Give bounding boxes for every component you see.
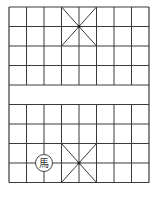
top-palace-center-dot bbox=[77, 25, 80, 28]
piece-label: 馬 bbox=[39, 158, 49, 169]
board-grid bbox=[9, 7, 149, 183]
piece-horse[interactable]: 馬 bbox=[36, 155, 53, 172]
bottom-palace-center-dot bbox=[77, 161, 80, 164]
xiangqi-board[interactable]: 馬 bbox=[0, 0, 157, 201]
pieces-layer: 馬 bbox=[36, 155, 53, 172]
